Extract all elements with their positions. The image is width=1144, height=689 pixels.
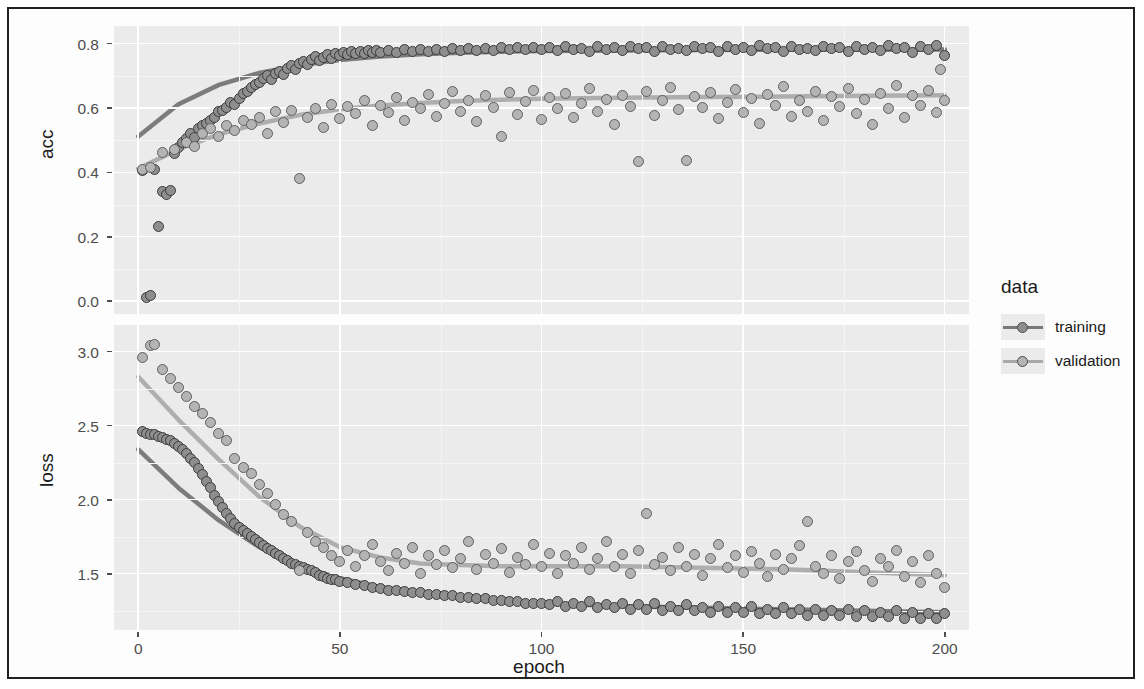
y-tick-label: 0.0 (45, 294, 99, 310)
data-point (391, 92, 402, 103)
data-point (488, 102, 499, 113)
data-point (504, 87, 515, 98)
gridline-vertical (541, 26, 542, 314)
data-point (383, 565, 394, 576)
ggplot-figure: 0.00.20.40.60.81.52.02.53.0050100150200 … (0, 0, 1144, 689)
x-tick-label: 200 (915, 641, 975, 657)
data-point (278, 117, 289, 128)
legend-item-validation[interactable]: validation (1001, 344, 1144, 378)
y-tick-mark (107, 236, 112, 238)
data-point (145, 162, 156, 173)
legend-label-validation: validation (1055, 353, 1121, 369)
data-point (883, 561, 894, 572)
x-tick-label: 0 (108, 641, 168, 657)
data-point (318, 122, 329, 133)
y-tick-label: 2.0 (45, 493, 99, 509)
data-point (867, 576, 878, 587)
gridline-vertical (742, 325, 743, 630)
data-point (843, 83, 854, 94)
legend: data training validation (1001, 277, 1144, 378)
data-point (859, 565, 870, 576)
data-point (407, 542, 418, 553)
legend-item-training[interactable]: training (1001, 310, 1144, 344)
data-point (439, 98, 450, 109)
data-point (504, 567, 515, 578)
data-point (254, 112, 265, 123)
x-tick-label: 150 (713, 641, 773, 657)
y-axis-title-loss: loss (37, 453, 56, 487)
data-point (181, 391, 192, 402)
data-point (875, 88, 886, 99)
data-point (480, 549, 491, 560)
data-point (342, 545, 353, 556)
gridline-vertical (541, 325, 542, 630)
gridline-vertical-minor (642, 26, 643, 314)
x-tick-mark (742, 632, 744, 637)
data-point (439, 545, 450, 556)
data-point (746, 546, 757, 557)
data-point (367, 120, 378, 131)
panel-acc (114, 26, 969, 314)
data-point (601, 94, 612, 105)
data-point (633, 545, 644, 556)
data-point (359, 550, 370, 561)
y-tick-mark (107, 107, 112, 109)
data-point (617, 549, 628, 560)
data-point (399, 558, 410, 569)
data-point (576, 98, 587, 109)
data-point (746, 93, 757, 104)
data-point (262, 488, 273, 499)
data-point (149, 339, 160, 350)
data-point (931, 40, 942, 51)
x-tick-mark (944, 632, 946, 637)
data-point (794, 95, 805, 106)
legend-key-validation (1001, 348, 1045, 374)
data-point (536, 561, 547, 572)
data-point (528, 85, 539, 96)
data-point (359, 95, 370, 106)
y-tick-mark (107, 172, 112, 174)
data-point (762, 89, 773, 100)
data-point (738, 567, 749, 578)
data-point (617, 90, 628, 101)
data-point (786, 111, 797, 122)
gridline-vertical (137, 325, 138, 630)
data-point (657, 552, 668, 563)
data-point (851, 546, 862, 557)
data-point (488, 558, 499, 569)
data-point (673, 542, 684, 553)
data-point (625, 568, 636, 579)
y-tick-label: 3.0 (45, 345, 99, 361)
data-point (157, 147, 168, 158)
data-point (294, 173, 305, 184)
data-point (536, 114, 547, 125)
data-point (649, 110, 660, 121)
legend-key-training (1001, 314, 1045, 340)
data-point (496, 131, 507, 142)
data-point (633, 156, 644, 167)
data-point (730, 84, 741, 95)
data-point (391, 548, 402, 559)
data-point (609, 561, 620, 572)
data-point (891, 545, 902, 556)
data-point (722, 562, 733, 573)
data-point (641, 86, 652, 97)
y-tick-mark (107, 573, 112, 575)
data-point (754, 118, 765, 129)
figure-frame: 0.00.20.40.60.81.52.02.53.0050100150200 … (7, 7, 1135, 679)
y-axis-title-acc: acc (37, 129, 56, 159)
data-point (310, 103, 321, 114)
legend-label-training: training (1055, 319, 1106, 335)
gridline-vertical-minor (239, 325, 240, 630)
data-point (431, 111, 442, 122)
data-point (778, 564, 789, 575)
data-point (859, 94, 870, 105)
data-point (770, 549, 781, 560)
data-point (609, 119, 620, 130)
gridline-vertical-minor (642, 325, 643, 630)
data-point (137, 352, 148, 363)
y-tick-mark (107, 300, 112, 302)
y-tick-label: 0.2 (45, 230, 99, 246)
data-point (939, 95, 950, 106)
gridline-vertical-minor (239, 26, 240, 314)
